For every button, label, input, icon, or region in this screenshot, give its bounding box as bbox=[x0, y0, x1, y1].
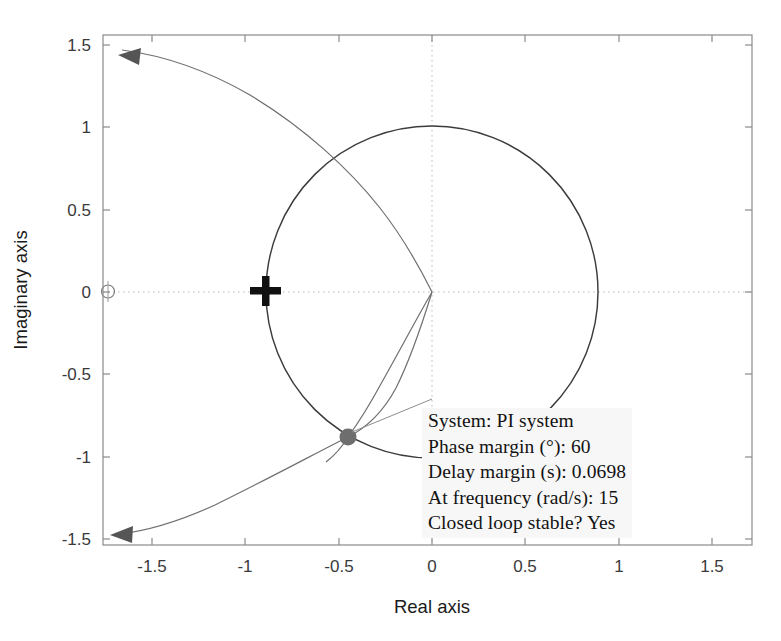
datatip-line-phase-margin: Phase margin (°): 60 bbox=[428, 434, 626, 460]
x-axis-title: Real axis bbox=[394, 596, 470, 617]
datatip-line-frequency: At frequency (rad/s): 15 bbox=[428, 485, 626, 511]
plot-canvas: -1.5 -1 -0.5 0 0.5 1 1.5 1.5 1 0.5 0 -0.… bbox=[0, 0, 781, 641]
x-tick-label: -1.5 bbox=[137, 557, 166, 576]
y-tick-label: 1 bbox=[82, 118, 91, 137]
y-axis-tick-labels: 1.5 1 0.5 0 -0.5 -1 -1.5 bbox=[62, 36, 91, 549]
datatip-line-delay-margin: Delay margin (s): 0.0698 bbox=[428, 459, 626, 485]
y-tick-label: 0.5 bbox=[67, 201, 91, 220]
x-tick-label: -1 bbox=[237, 557, 252, 576]
y-axis-title: Imaginary axis bbox=[10, 230, 31, 349]
y-tick-label: 0 bbox=[82, 283, 91, 302]
x-tick-label: 1 bbox=[614, 557, 623, 576]
y-tick-label: 1.5 bbox=[67, 36, 91, 55]
datatip-box[interactable]: System: PI system Phase margin (°): 60 D… bbox=[422, 408, 632, 538]
x-tick-label: 0.5 bbox=[513, 557, 537, 576]
y-tick-label: -1 bbox=[76, 448, 91, 467]
datatip-line-system: System: PI system bbox=[428, 408, 626, 434]
x-axis-tick-labels: -1.5 -1 -0.5 0 0.5 1 1.5 bbox=[137, 557, 723, 576]
x-tick-label: 1.5 bbox=[700, 557, 724, 576]
x-tick-label: 0 bbox=[427, 557, 436, 576]
datatip-line-stability: Closed loop stable? Yes bbox=[428, 510, 626, 536]
nyquist-figure: -1.5 -1 -0.5 0 0.5 1 1.5 1.5 1 0.5 0 -0.… bbox=[0, 0, 781, 641]
x-tick-label: -0.5 bbox=[324, 557, 353, 576]
y-tick-label: -0.5 bbox=[62, 365, 91, 384]
critical-point-vertical-bar bbox=[262, 276, 270, 306]
y-tick-label: -1.5 bbox=[62, 530, 91, 549]
